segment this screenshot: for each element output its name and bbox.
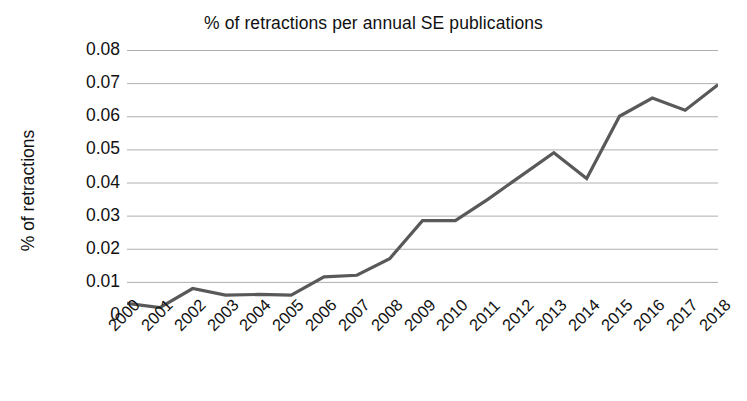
x-tick-label: 2005: [269, 296, 307, 334]
x-tick-label: 2006: [302, 296, 340, 334]
x-tick-label: 2002: [171, 296, 209, 334]
x-tick-label: 2014: [565, 296, 603, 334]
x-tick-label: 2000: [105, 296, 143, 334]
x-tick-label: 2010: [433, 296, 471, 334]
x-tick-label: 2012: [499, 296, 537, 334]
x-tick-label: 2016: [630, 296, 668, 334]
x-tick-label: 2018: [696, 296, 734, 334]
x-axis-tick-labels: 2000200120022003200420052006200720082009…: [0, 0, 747, 401]
x-tick-label: 2009: [401, 296, 439, 334]
x-tick-label: 2011: [466, 297, 503, 334]
x-tick-label: 2004: [236, 296, 274, 334]
chart-container: % of retractions per annual SE publicati…: [0, 0, 747, 401]
x-tick-label: 2015: [598, 296, 636, 334]
x-tick-label: 2008: [368, 296, 406, 334]
x-tick-label: 2017: [663, 296, 701, 334]
x-tick-label: 2007: [335, 296, 373, 334]
x-tick-label: 2001: [138, 296, 176, 334]
x-tick-label: 2013: [532, 296, 570, 334]
x-tick-label: 2003: [204, 296, 242, 334]
